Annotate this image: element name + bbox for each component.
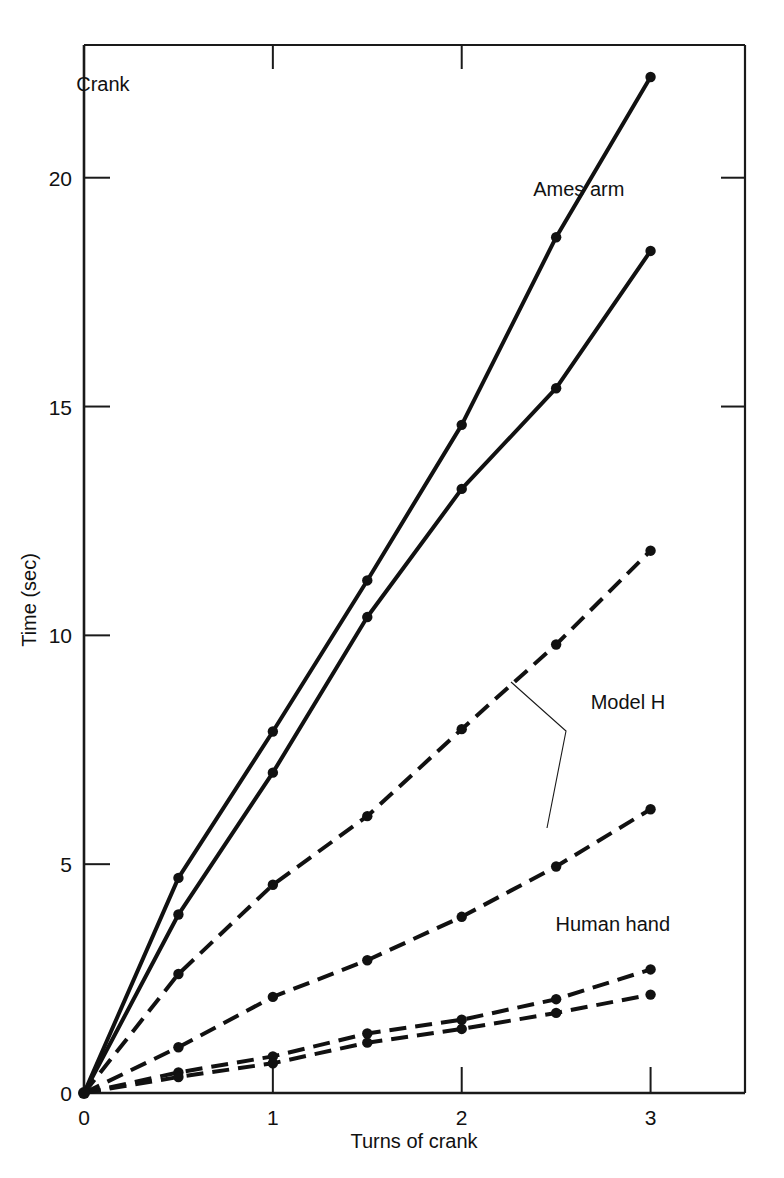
chart-figure: 05101520 0123 Ames armModel HHuman handC… xyxy=(0,0,784,1178)
y-tick-label: 10 xyxy=(49,624,72,647)
data-point-marker xyxy=(551,383,561,393)
data-point-marker xyxy=(268,767,278,777)
data-point-marker xyxy=(268,1058,278,1068)
x-tick-label: 3 xyxy=(645,1106,657,1129)
y-tick-label: 5 xyxy=(60,853,72,876)
data-point-marker xyxy=(551,861,561,871)
data-point-marker xyxy=(362,1037,372,1047)
data-point-marker xyxy=(645,246,655,256)
x-tick-label: 1 xyxy=(267,1106,279,1129)
data-point-marker xyxy=(551,1008,561,1018)
y-tick-label: 15 xyxy=(49,396,72,419)
data-point-marker xyxy=(645,72,655,82)
data-point-marker xyxy=(551,232,561,242)
data-point-marker xyxy=(268,880,278,890)
data-point-marker xyxy=(173,873,183,883)
data-point-marker xyxy=(173,1072,183,1082)
data-point-marker xyxy=(457,1024,467,1034)
series-annotation-label: Human hand xyxy=(556,913,671,935)
x-tick-label: 2 xyxy=(456,1106,468,1129)
data-point-marker xyxy=(645,804,655,814)
data-point-marker xyxy=(457,1015,467,1025)
data-point-marker xyxy=(268,726,278,736)
data-point-marker xyxy=(173,909,183,919)
series-annotation-label: Model H xyxy=(591,691,665,713)
data-point-marker xyxy=(362,811,372,821)
chart-background xyxy=(0,0,784,1178)
crank-time-line-chart: 05101520 0123 Ames armModel HHuman handC… xyxy=(0,0,784,1178)
data-point-marker xyxy=(362,612,372,622)
data-point-marker xyxy=(362,955,372,965)
x-axis-title: Turns of crank xyxy=(350,1130,478,1152)
series-annotation-label: Ames arm xyxy=(533,178,624,200)
data-point-marker xyxy=(457,912,467,922)
data-point-marker xyxy=(645,989,655,999)
data-point-marker xyxy=(268,992,278,1002)
y-tick-label: 0 xyxy=(60,1082,72,1105)
data-point-marker xyxy=(551,994,561,1004)
data-point-marker xyxy=(457,724,467,734)
origin-marker xyxy=(78,1087,90,1099)
y-axis-title: Time (sec) xyxy=(18,553,40,647)
x-tick-label: 0 xyxy=(78,1106,90,1129)
y-tick-label: 20 xyxy=(49,167,72,190)
data-point-marker xyxy=(645,545,655,555)
series-annotation-label: Crank xyxy=(76,73,130,95)
data-point-marker xyxy=(362,575,372,585)
data-point-marker xyxy=(362,1028,372,1038)
data-point-marker xyxy=(645,964,655,974)
data-point-marker xyxy=(551,639,561,649)
data-point-marker xyxy=(457,420,467,430)
data-point-marker xyxy=(173,1042,183,1052)
data-point-marker xyxy=(173,969,183,979)
data-point-marker xyxy=(457,484,467,494)
